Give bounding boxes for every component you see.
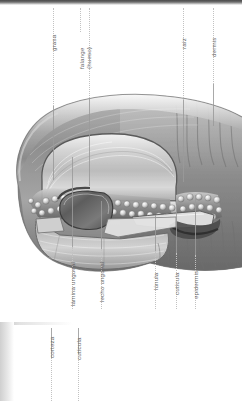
label-lecho-ungueal: lecho ungueal bbox=[98, 262, 105, 302]
label-lamina-ungueal: lámina ungueal bbox=[69, 262, 76, 306]
leader-line-corteza-dotted bbox=[51, 358, 52, 401]
leader-line-cuticula bbox=[176, 205, 177, 253]
label-cuticula: cutícula bbox=[173, 272, 180, 295]
leader-line-falange bbox=[89, 98, 90, 186]
leader-line-grasa-dotted bbox=[53, 8, 54, 106]
leader-line-raiz bbox=[183, 100, 184, 182]
label-cuticula-secondary: cutícula bbox=[75, 337, 82, 360]
label-corteza: corteza bbox=[48, 337, 55, 358]
leader-line-lamina-ungueal bbox=[72, 157, 73, 247]
leader-line-epidermis bbox=[195, 195, 196, 255]
leader-line-lecho-ungueal bbox=[101, 201, 102, 249]
phalanx-bone bbox=[60, 191, 113, 229]
label-falange-line1: falange bbox=[78, 47, 85, 69]
label-epidermis: epidermis bbox=[192, 271, 199, 299]
leader-line-grasa bbox=[53, 106, 54, 180]
label-dermis: dermis bbox=[210, 38, 217, 57]
leader-line-cuticula-2-dotted bbox=[78, 354, 79, 401]
label-grasa: grasa bbox=[50, 35, 57, 51]
page-root: grasa falange (hueso) raíz dermis lámina… bbox=[0, 0, 242, 401]
leader-line-raiz-dotted bbox=[183, 8, 184, 100]
label-lunula: lúnula bbox=[152, 273, 159, 290]
label-falange-line2: (hueso) bbox=[85, 47, 92, 69]
figure-panel-secondary: corteza cutícula bbox=[0, 322, 242, 401]
leader-line-falange-dotted-a bbox=[80, 8, 81, 32]
figure-panel-main: grasa falange (hueso) raíz dermis lámina… bbox=[0, 5, 242, 320]
leader-line-lunula bbox=[155, 215, 156, 251]
leader-line-dermis bbox=[213, 84, 214, 126]
free-edge-step bbox=[36, 217, 64, 233]
secondary-panel-left-edge bbox=[0, 322, 14, 401]
label-falange: falange (hueso) bbox=[78, 47, 92, 69]
label-raiz: raíz bbox=[180, 38, 187, 49]
secondary-panel-top-edge bbox=[0, 322, 242, 325]
nail-cross-section-illustration bbox=[0, 5, 242, 320]
